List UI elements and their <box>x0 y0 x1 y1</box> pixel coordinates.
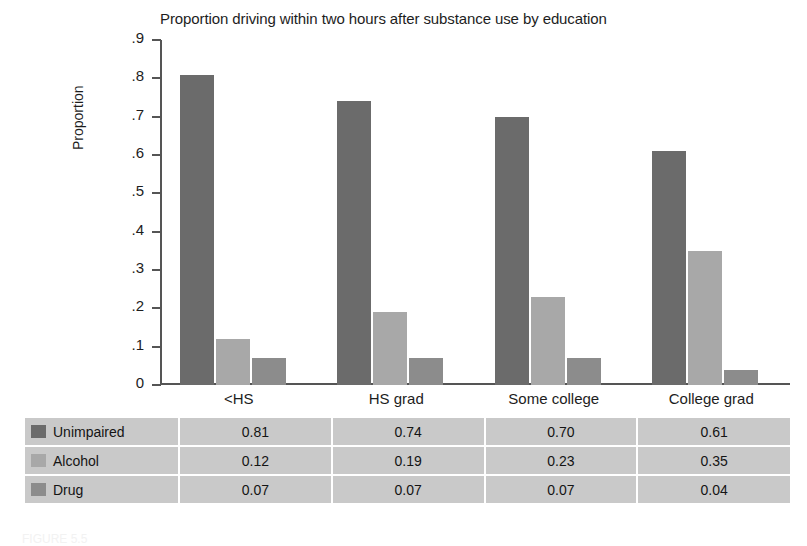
y-axis-tick-label: .6 <box>104 144 144 161</box>
legend-series-label: Drug <box>53 482 83 498</box>
table-cell-value: 0.23 <box>485 446 638 475</box>
table-cell-value: 0.04 <box>637 475 790 503</box>
bar <box>652 151 686 385</box>
data-table: Unimpaired0.810.740.700.61Alcohol0.120.1… <box>25 418 790 503</box>
y-axis-tick-label: .4 <box>104 221 144 238</box>
chart-title: Proportion driving within two hours afte… <box>160 10 720 27</box>
table-cell-value: 0.35 <box>637 446 790 475</box>
y-axis-tick-label: 0 <box>104 374 144 391</box>
y-axis-tick-label: .8 <box>104 67 144 84</box>
table-row-legend-cell: Unimpaired <box>25 418 179 446</box>
table-cell-value: 0.07 <box>485 475 638 503</box>
table-cell-value: 0.61 <box>637 418 790 446</box>
table-cell-value: 0.74 <box>332 418 485 446</box>
figure-caption: FIGURE 5.5 <box>22 532 87 546</box>
y-axis-tick-label: .2 <box>104 297 144 314</box>
table-cell-value: 0.12 <box>179 446 332 475</box>
bar <box>724 370 758 385</box>
legend-swatch-icon <box>31 425 46 438</box>
legend-series-label: Alcohol <box>53 453 99 469</box>
legend-series-label: Unimpaired <box>53 424 125 440</box>
x-axis-category-label: <HS <box>160 390 318 407</box>
table-cell-value: 0.07 <box>179 475 332 503</box>
y-axis-title: Proportion <box>70 85 86 150</box>
legend-swatch-icon <box>31 483 46 496</box>
table-row: Drug0.070.070.070.04 <box>25 475 790 503</box>
bars-layer <box>160 40 790 385</box>
bar <box>531 297 565 385</box>
data-table-body: Unimpaired0.810.740.700.61Alcohol0.120.1… <box>25 418 790 503</box>
bar <box>688 251 722 385</box>
bar <box>252 358 286 385</box>
x-axis-category-label: Some college <box>475 390 633 407</box>
table-cell-value: 0.81 <box>179 418 332 446</box>
x-axis-category-label: College grad <box>633 390 791 407</box>
bar <box>409 358 443 385</box>
table-row-legend-cell: Drug <box>25 475 179 503</box>
y-axis-tick-label: .9 <box>104 29 144 46</box>
table-row: Alcohol0.120.190.230.35 <box>25 446 790 475</box>
bar <box>337 101 371 385</box>
bar <box>495 117 529 385</box>
y-axis-tick-label: .1 <box>104 336 144 353</box>
y-axis-tick-label: .7 <box>104 106 144 123</box>
table-cell-value: 0.70 <box>485 418 638 446</box>
figure-container: Proportion driving within two hours afte… <box>0 0 807 546</box>
x-axis-category-label: HS grad <box>318 390 476 407</box>
y-axis-tick-label: .5 <box>104 182 144 199</box>
legend-swatch-icon <box>31 454 46 467</box>
bar <box>567 358 601 385</box>
table-row: Unimpaired0.810.740.700.61 <box>25 418 790 446</box>
bar <box>373 312 407 385</box>
bar <box>180 75 214 386</box>
table-cell-value: 0.19 <box>332 446 485 475</box>
table-cell-value: 0.07 <box>332 475 485 503</box>
table-row-legend-cell: Alcohol <box>25 446 179 475</box>
y-axis-tick-label: .3 <box>104 259 144 276</box>
bar <box>216 339 250 385</box>
